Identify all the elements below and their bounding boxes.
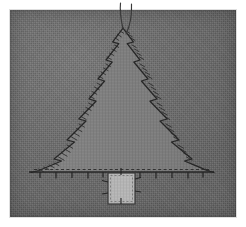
thread-right (126, 4, 132, 34)
thread-left (120, 3, 123, 29)
tree-shading (34, 27, 212, 172)
photograph: embroidered christmas tree applique on g… (0, 0, 246, 227)
tree-body (34, 27, 212, 172)
tree-trunk-patch (102, 168, 141, 204)
applique-artwork (0, 0, 246, 227)
